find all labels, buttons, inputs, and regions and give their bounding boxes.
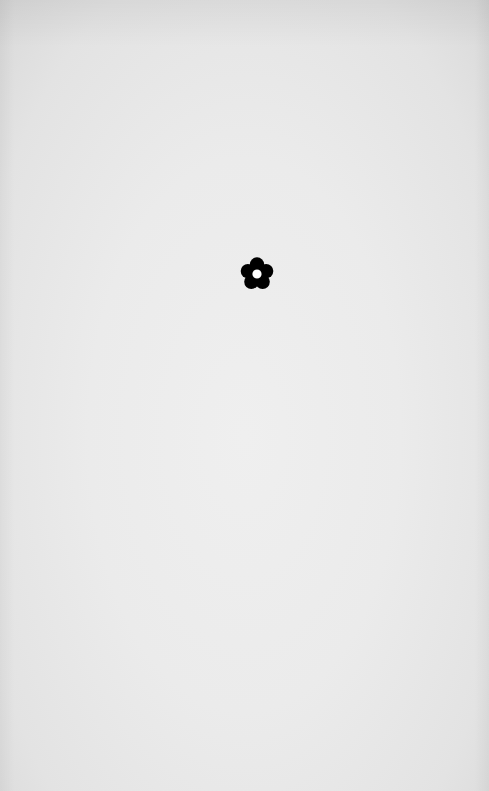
loading-indicator: Loading [239, 256, 275, 292]
loading-screen: Loading [0, 0, 489, 791]
loading-label: Loading [239, 292, 240, 293]
flower-icon [239, 256, 275, 292]
